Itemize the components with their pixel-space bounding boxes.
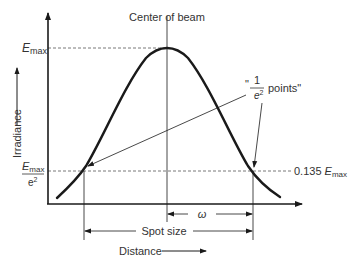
svg-text:points": points": [268, 82, 301, 94]
svg-text:e2: e2: [28, 176, 38, 188]
distance-label: Distance: [119, 245, 162, 257]
e2-points-label: " 1 e2 points": [245, 74, 301, 101]
svg-text:": ": [245, 78, 249, 90]
pointer-arrow-right: [254, 103, 262, 167]
irradiance-label: Irradiance: [11, 109, 23, 158]
svg-text:e2: e2: [254, 89, 264, 101]
svg-text:1: 1: [254, 74, 260, 86]
spot-size-label: Spot size: [141, 225, 186, 237]
omega-label: ω: [198, 208, 207, 220]
emax-over-e2-label: Emax e2: [22, 160, 44, 188]
emax-label: Emax: [22, 41, 48, 56]
gaussian-curve: [57, 48, 280, 198]
right-value-label: 0.135 Emax: [294, 165, 347, 179]
gaussian-beam-diagram: Center of beam Emax Irradiance Emax e2 0…: [0, 0, 352, 269]
svg-text:Emax: Emax: [22, 160, 44, 174]
center-of-beam-label: Center of beam: [129, 11, 205, 23]
